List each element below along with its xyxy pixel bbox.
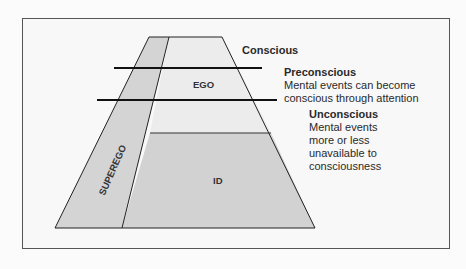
preconscious-desc-1: Mental events can become: [284, 79, 415, 92]
unconscious-desc-4: consciousness: [309, 160, 381, 173]
preconscious-desc-2: conscious through attention: [284, 92, 419, 105]
unconscious-title: Unconscious: [309, 108, 378, 121]
unconscious-desc-3: unavailable to: [309, 147, 377, 160]
unconscious-desc-2: more or less: [309, 134, 370, 147]
preconscious-title: Preconscious: [284, 66, 356, 79]
ego-label: EGO: [193, 79, 214, 92]
iceberg-pyramid: [0, 0, 466, 269]
id-label: ID: [213, 175, 223, 188]
unconscious-desc-1: Mental events: [309, 121, 377, 134]
conscious-title: Conscious: [242, 44, 298, 57]
